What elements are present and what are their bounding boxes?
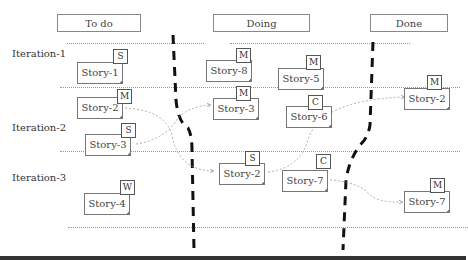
bottom-border	[0, 256, 466, 260]
story-label: Story-3	[217, 103, 254, 114]
size-badge: M	[117, 89, 132, 104]
story-label: Story-2	[408, 93, 445, 104]
story-card-story-3-doing[interactable]: Story-3	[213, 98, 259, 120]
story-card-story-2-done[interactable]: Story-2	[404, 88, 450, 110]
story-label: Story-7	[408, 196, 445, 207]
size-badge: M	[430, 178, 445, 193]
story-label: Story-2	[81, 102, 118, 113]
size-badge: C	[308, 95, 323, 110]
story-label: Story-2	[223, 168, 260, 179]
story-label: Story-6	[290, 111, 327, 122]
story-card-story-1[interactable]: Story-1	[77, 62, 123, 84]
story-card-story-7-done[interactable]: Story-7	[404, 191, 450, 213]
story-label: Story-5	[282, 73, 319, 84]
size-badge: M	[306, 55, 321, 70]
size-badge: M	[236, 48, 251, 63]
doing-done-boundary	[343, 42, 373, 250]
story-label: Story-8	[210, 65, 247, 76]
story-label: Story-7	[286, 175, 323, 186]
story-label: Story-1	[81, 67, 118, 78]
todo-doing-boundary	[173, 35, 194, 250]
size-badge: M	[427, 75, 442, 90]
story-label: Story-3	[89, 139, 126, 150]
size-badge: S	[121, 123, 136, 138]
story-card-story-5[interactable]: Story-5	[278, 68, 324, 90]
story-label: Story-4	[88, 198, 125, 209]
size-badge: S	[113, 49, 128, 64]
size-badge: S	[245, 151, 260, 166]
size-badge: W	[120, 180, 135, 195]
size-badge: M	[236, 86, 251, 101]
story-card-story-4[interactable]: Story-4	[84, 193, 130, 215]
size-badge: C	[316, 154, 331, 169]
story-card-story-7[interactable]: Story-7	[282, 170, 328, 192]
story-card-story-2-doing[interactable]: Story-2	[219, 163, 265, 185]
story-card-story-8[interactable]: Story-8	[206, 60, 252, 82]
